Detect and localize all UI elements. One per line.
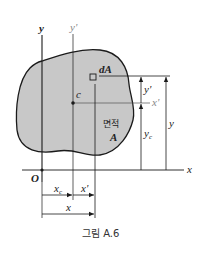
centroid-point: [71, 101, 75, 105]
dA-label: dA: [99, 63, 112, 75]
y-axis-label: y: [37, 22, 44, 34]
y-prime-axis-label: y': [69, 21, 78, 33]
y-dimension-label: y: [168, 117, 174, 129]
y-prime-dimension-label: y': [143, 83, 152, 95]
x-axis-label: x: [186, 163, 192, 175]
region-label-korean: 면적: [103, 118, 119, 129]
x-dimension-label: x: [65, 201, 71, 213]
x-prime-dimension-label: x': [80, 182, 89, 194]
centroid-label: c: [76, 88, 81, 100]
yc-dimension-label: yc: [143, 127, 153, 141]
origin-point: [40, 168, 43, 171]
centroid-diagram: x y O y' x' c dA 면적 A y' yc y xc x' x 그림…: [0, 0, 203, 254]
x-prime-axis-label: x': [151, 96, 160, 108]
xc-dimension-label: xc: [53, 182, 63, 196]
origin-label: O: [31, 172, 39, 184]
figure-caption: 그림 A.6: [82, 228, 119, 239]
region-label-A: A: [109, 131, 117, 143]
